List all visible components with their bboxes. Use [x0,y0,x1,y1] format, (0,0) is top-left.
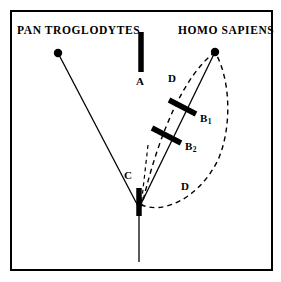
event-label-b1-subscript: 1 [208,117,212,126]
clade-label-d-lower: D [181,181,189,192]
phylogenetic-tree-figure: PAN TROGLODYTES HOMO SAPIENS A B1 B2 C D… [0,0,281,282]
event-label-b2-base: B [185,140,193,152]
event-label-a: A [136,76,144,87]
event-label-b1: B1 [200,113,212,124]
tree-canvas [0,0,281,282]
event-label-c: C [124,170,132,181]
branch-pan [58,53,139,208]
event-label-b2-subscript: 2 [193,145,197,154]
branch-homo [139,52,215,208]
taxon-label-homo: HOMO SAPIENS [178,25,274,37]
event-label-b2: B2 [185,141,197,152]
tip-node-pan [54,49,62,57]
tip-node-homo [211,48,219,56]
event-label-b1-base: B [200,112,208,124]
taxon-label-pan: PAN TROGLODYTES [17,25,140,37]
clade-label-d-upper: D [168,73,176,84]
